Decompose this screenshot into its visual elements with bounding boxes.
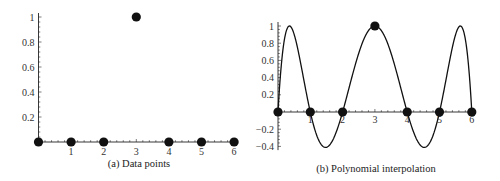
- data-point: [338, 107, 347, 116]
- data-point: [306, 107, 315, 116]
- y-tick-label: −0.2: [256, 124, 274, 135]
- y-tick-label: 1: [269, 21, 274, 32]
- chart-caption: (a) Data points: [108, 158, 170, 170]
- data-point: [132, 12, 141, 21]
- x-tick-label: 4: [166, 146, 171, 157]
- y-tick-label: 0.6: [22, 62, 35, 73]
- x-tick-label: 6: [232, 146, 237, 157]
- y-tick-label: 1: [30, 12, 35, 23]
- chart-data-points: 0.20.40.60.81123456(a) Data points: [22, 12, 239, 171]
- data-point: [99, 137, 108, 146]
- data-point: [435, 107, 444, 116]
- y-tick-label: −0.4: [256, 141, 274, 152]
- x-tick-label: 1: [69, 146, 74, 157]
- data-point: [230, 137, 239, 146]
- y-tick-label: 0.2: [22, 112, 35, 123]
- data-point: [67, 137, 76, 146]
- x-tick-label: 3: [134, 146, 139, 157]
- x-tick-label: 5: [199, 146, 204, 157]
- data-point: [370, 21, 379, 30]
- y-tick-label: 0.8: [262, 38, 275, 49]
- y-tick-label: 0.4: [262, 72, 275, 83]
- chart-polynomial-interpolation: −0.4−0.20.20.40.60.81123456(b) Polynomia…: [256, 21, 477, 176]
- y-tick-label: 0.2: [262, 89, 275, 100]
- y-tick-label: 0.4: [22, 87, 35, 98]
- data-point: [34, 137, 43, 146]
- figure: 0.20.40.60.81123456(a) Data points −0.4−…: [0, 0, 500, 181]
- y-tick-label: 0.6: [262, 55, 275, 66]
- data-point: [467, 107, 476, 116]
- data-point: [197, 137, 206, 146]
- y-tick-label: 0.8: [22, 37, 35, 48]
- interpolation-curve: [278, 26, 472, 147]
- chart-caption: (b) Polynomial interpolation: [316, 163, 436, 175]
- x-tick-label: 3: [372, 114, 377, 125]
- data-point: [164, 137, 173, 146]
- data-point: [403, 107, 412, 116]
- data-point: [273, 107, 282, 116]
- x-tick-label: 2: [101, 146, 106, 157]
